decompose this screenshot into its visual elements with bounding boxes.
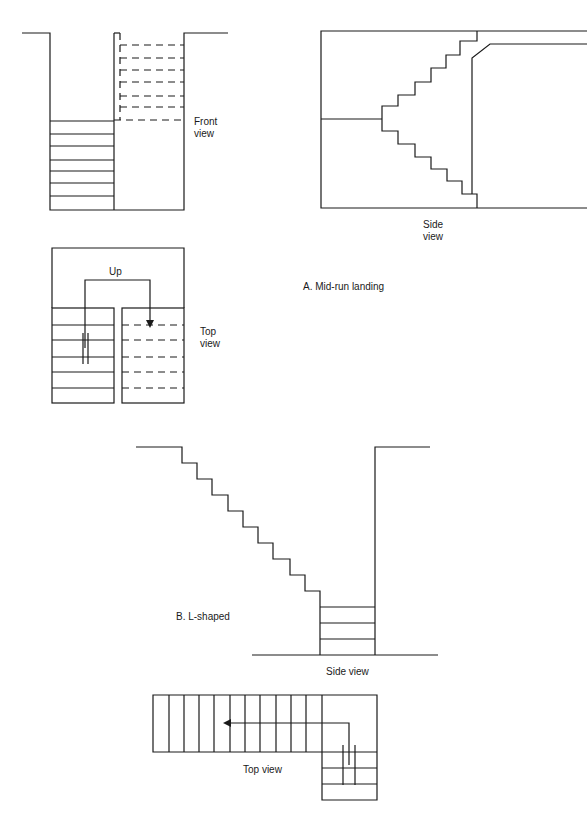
top-view-label-1: Top xyxy=(200,326,217,337)
up-arrow-icon xyxy=(85,280,150,348)
caption-a: A. Mid-run landing xyxy=(303,281,384,292)
caption-b: B. L-shaped xyxy=(176,611,230,622)
a-front-view: Front view xyxy=(22,33,228,210)
b-side-view: Side view xyxy=(136,447,438,677)
a-side-view: Side view xyxy=(321,31,587,242)
up-arrow-icon xyxy=(225,723,349,765)
up-label: Up xyxy=(109,266,122,277)
stair-diagrams: Front view Side view Up Top view A. Mid- xyxy=(0,0,588,826)
top-view-label-2: view xyxy=(200,338,221,349)
b-side-view-label: Side view xyxy=(326,666,370,677)
front-view-label-2: view xyxy=(194,128,215,139)
a-top-view: Up Top view xyxy=(52,248,221,403)
side-view-label-1: Side xyxy=(423,219,443,230)
b-top-view: Top view xyxy=(153,695,377,800)
side-view-label-2: view xyxy=(423,231,444,242)
front-view-label-1: Front xyxy=(194,116,218,127)
b-top-view-label: Top view xyxy=(243,764,283,775)
